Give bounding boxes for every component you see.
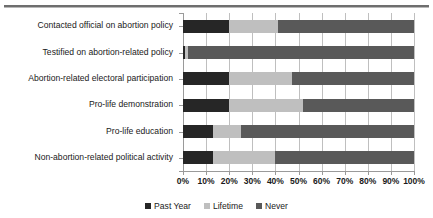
x-tick-label: 10% — [198, 176, 215, 187]
legend-entry[interactable]: Past Year — [145, 201, 191, 212]
page-divider-rule-shadow — [4, 7, 429, 8]
x-tick-label: 60% — [313, 176, 330, 187]
bar-segment-past-year — [183, 20, 229, 33]
bar-segment-lifetime — [229, 72, 291, 85]
x-tick-label: 20% — [221, 176, 238, 187]
category-label: Non-abortion-related political activity — [0, 152, 173, 163]
legend-swatch-icon — [204, 203, 210, 209]
bar-row — [183, 20, 414, 33]
bar-segment-never — [303, 99, 414, 112]
bar-segment-never — [292, 72, 414, 85]
legend-swatch-icon — [256, 203, 262, 209]
legend-entry[interactable]: Never — [256, 201, 288, 212]
category-label: Pro-life demonstration — [0, 99, 173, 110]
plot-area — [183, 13, 414, 171]
x-tick — [322, 171, 323, 175]
x-tick-label: 30% — [244, 176, 261, 187]
legend-label: Never — [265, 201, 288, 212]
category-label: Contacted official on abortion policy — [0, 20, 173, 31]
bar-segment-past-year — [183, 125, 213, 138]
bar-row — [183, 46, 414, 59]
bar-segment-past-year — [183, 99, 229, 112]
category-label: Pro-life education — [0, 126, 173, 137]
bar-segment-lifetime — [213, 151, 275, 164]
bar-segment-past-year — [183, 72, 229, 85]
bar-segment-lifetime — [229, 99, 303, 112]
x-tick — [183, 171, 184, 175]
legend-label: Lifetime — [213, 201, 243, 212]
x-tick — [229, 171, 230, 175]
x-tick-label: 50% — [290, 176, 307, 187]
bar-row — [183, 151, 414, 164]
x-tick — [345, 171, 346, 175]
bar-segment-never — [241, 125, 414, 138]
x-tick-label: 40% — [267, 176, 284, 187]
bar-segment-past-year — [183, 151, 213, 164]
chart-legend: Past YearLifetimeNever — [0, 198, 433, 214]
bar-row — [183, 125, 414, 138]
legend-label: Past Year — [154, 201, 191, 212]
bar-row — [183, 99, 414, 112]
x-tick — [252, 171, 253, 175]
bar-segment-lifetime — [229, 20, 278, 33]
category-boundary-tick — [179, 13, 183, 14]
stacked-bar-chart-figure: Contacted official on abortion policyTes… — [0, 0, 433, 218]
gridline-100pct — [414, 13, 415, 171]
x-tick-label: 70% — [336, 176, 353, 187]
x-tick — [368, 171, 369, 175]
bar-segment-never — [275, 151, 414, 164]
legend-entry[interactable]: Lifetime — [204, 201, 243, 212]
bar-rows — [183, 13, 414, 171]
bar-segment-lifetime — [213, 125, 241, 138]
category-label: Abortion-related electoral participation — [0, 73, 173, 84]
x-tick — [206, 171, 207, 175]
bar-row — [183, 72, 414, 85]
x-tick — [299, 171, 300, 175]
x-tick-label: 90% — [382, 176, 399, 187]
x-tick-label: 80% — [359, 176, 376, 187]
x-tick-label: 100% — [403, 176, 425, 187]
legend-swatch-icon — [145, 203, 151, 209]
bar-segment-never — [278, 20, 414, 33]
x-tick-label: 0% — [177, 176, 189, 187]
x-tick — [414, 171, 415, 175]
category-label: Testified on abortion-related policy — [0, 47, 173, 58]
x-tick — [275, 171, 276, 175]
x-tick — [391, 171, 392, 175]
bar-segment-never — [188, 46, 414, 59]
category-axis-labels: Contacted official on abortion policyTes… — [0, 13, 178, 171]
x-axis-tick-labels: 0%10%20%30%40%50%60%70%80%90%100% — [0, 176, 433, 190]
